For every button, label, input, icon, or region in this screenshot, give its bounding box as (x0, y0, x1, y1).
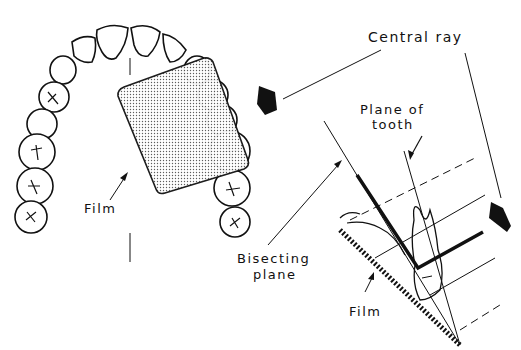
tooth-incisor-1 (97, 25, 128, 59)
plane-of-tooth-leader (412, 136, 422, 154)
tooth-outline (412, 207, 442, 300)
tooth-canine-left (50, 56, 76, 84)
tooth-incisor-2 (131, 26, 160, 57)
film-side-leader (365, 278, 372, 292)
central-ray-arrow-arch (257, 86, 277, 115)
tooth-lateral-left (72, 37, 96, 63)
plane-of-tooth-label-line1: Plane of (360, 102, 424, 117)
film-arch-label: Film (84, 201, 116, 216)
film-side-arrowhead (368, 272, 374, 280)
film-side-label: Film (349, 304, 381, 319)
film-arch-leader (110, 177, 125, 200)
film-arch-arrowhead (120, 172, 128, 181)
bisecting-plane-label-line1: Bisecting (237, 251, 310, 266)
plane-of-tooth-label-line2: tooth (372, 117, 414, 132)
angle-bisector-thick (357, 175, 483, 268)
central-ray-label: Central ray (368, 30, 463, 45)
diagram-canvas (0, 0, 521, 350)
central-ray-arrow-right (489, 202, 511, 232)
tooth-premolar-left-1 (39, 82, 69, 112)
central-ray-leader-1 (283, 50, 381, 99)
bisecting-arrowhead (334, 160, 342, 168)
bisecting-plane-label-line2: plane (253, 267, 297, 282)
film-packet (118, 58, 249, 194)
tooth-lateral-right (163, 34, 186, 62)
bisecting-leader (268, 165, 338, 245)
central-ray-leader-2 (465, 53, 501, 198)
